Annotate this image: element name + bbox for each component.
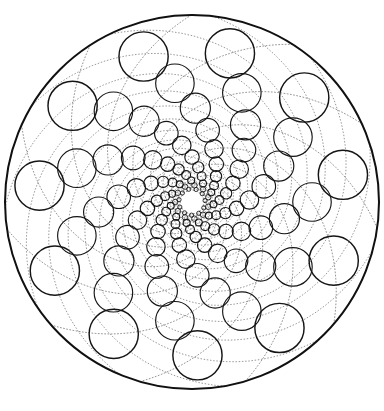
mandala-figure — [0, 0, 384, 411]
doyle-spiral-diagram — [0, 0, 384, 411]
figure-background — [0, 0, 384, 411]
